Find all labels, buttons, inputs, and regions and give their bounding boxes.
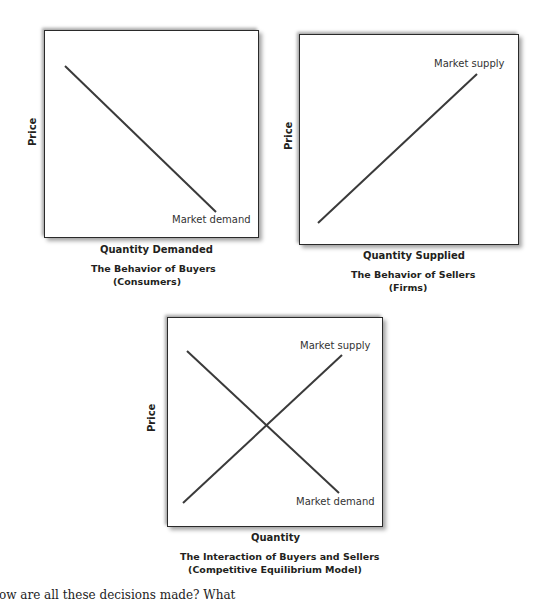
supply-curve-interaction [183, 355, 342, 503]
supply-curve-sellers [318, 74, 477, 223]
demand-curve-buyers [65, 66, 216, 212]
body-text-fragment: ow are all these decisions made? What [0, 588, 235, 602]
demand-curve-interaction [187, 351, 339, 493]
